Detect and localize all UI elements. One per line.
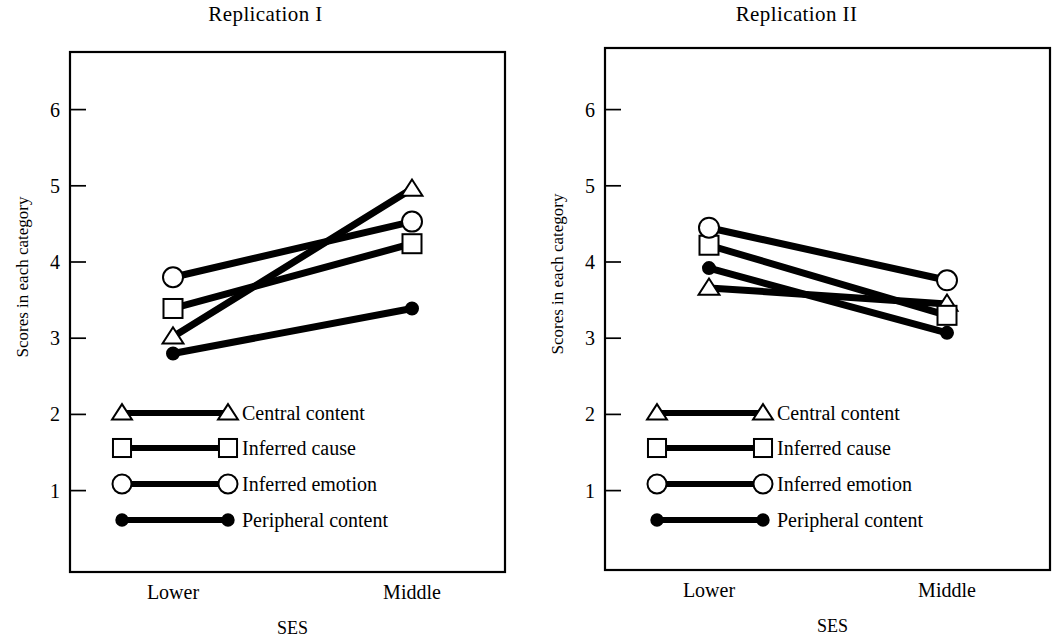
y-axis-tick-label: 2 — [585, 403, 595, 425]
y-axis-tick-label: 6 — [50, 99, 60, 121]
legend-label: Inferred cause — [242, 437, 356, 459]
x-axis-category-label: Middle — [383, 581, 441, 603]
plot-area-replication-2: 123456Scores in each categoryLowerMiddle… — [531, 0, 1062, 642]
series-line-inferred-cause[interactable] — [173, 244, 412, 309]
triangle-open-icon — [402, 179, 423, 195]
x-axis-title: SES — [277, 618, 308, 638]
data-point-circle-filled[interactable] — [703, 262, 715, 274]
data-point-circle-open[interactable] — [113, 475, 132, 494]
data-point-circle-filled[interactable] — [116, 514, 127, 525]
circle-filled-icon — [222, 514, 233, 525]
legend-item-inferred-emotion[interactable]: Inferred emotion — [648, 473, 912, 495]
circle-filled-icon — [116, 514, 127, 525]
data-point-circle-filled[interactable] — [222, 514, 233, 525]
circle-filled-icon — [941, 327, 953, 339]
data-point-circle-open[interactable] — [754, 475, 773, 494]
circle-open-icon — [648, 475, 667, 494]
circle-open-icon — [699, 218, 719, 238]
x-axis-title: SES — [817, 616, 848, 636]
data-point-circle-open[interactable] — [937, 270, 957, 290]
legend-label: Peripheral content — [777, 509, 923, 532]
circle-open-icon — [937, 270, 957, 290]
legend-item-central-content[interactable]: Central content — [647, 402, 900, 424]
circle-open-icon — [219, 475, 238, 494]
data-point-square-open[interactable] — [113, 439, 131, 457]
legend-label: Inferred emotion — [242, 473, 377, 495]
data-point-circle-open[interactable] — [402, 212, 422, 232]
y-axis-title: Scores in each category — [548, 193, 567, 354]
legend-item-inferred-cause[interactable]: Inferred cause — [113, 437, 356, 459]
circle-filled-icon — [703, 262, 715, 274]
square-open-icon — [754, 439, 772, 457]
y-axis-tick-label: 4 — [50, 251, 60, 273]
legend-item-peripheral-content[interactable]: Peripheral content — [651, 509, 923, 532]
circle-filled-icon — [167, 347, 179, 359]
data-point-circle-open[interactable] — [699, 218, 719, 238]
square-open-icon — [648, 439, 666, 457]
y-axis-tick-label: 1 — [585, 480, 595, 502]
data-point-circle-filled[interactable] — [651, 514, 662, 525]
x-axis-category-label: Middle — [918, 579, 976, 601]
legend-label: Inferred emotion — [777, 473, 912, 495]
y-axis-tick-label: 6 — [585, 99, 595, 121]
legend-label: Inferred cause — [777, 437, 891, 459]
data-point-square-open[interactable] — [754, 439, 772, 457]
data-point-circle-filled[interactable] — [167, 347, 179, 359]
circle-open-icon — [402, 212, 422, 232]
circle-open-icon — [754, 475, 773, 494]
panel-replication-2: Replication II 123456Scores in each cate… — [531, 0, 1062, 642]
data-point-circle-open[interactable] — [219, 475, 238, 494]
y-axis-tick-label: 5 — [585, 175, 595, 197]
circle-filled-icon — [757, 514, 768, 525]
y-axis-tick-label: 1 — [50, 480, 60, 502]
x-axis-category-label: Lower — [683, 579, 736, 601]
y-axis-title: Scores in each category — [13, 196, 32, 357]
square-open-icon — [164, 299, 183, 318]
data-point-square-open[interactable] — [938, 306, 957, 325]
circle-open-icon — [113, 475, 132, 494]
legend-item-inferred-cause[interactable]: Inferred cause — [648, 437, 891, 459]
data-point-triangle-open[interactable] — [402, 179, 423, 195]
circle-open-icon — [163, 267, 183, 287]
plot-area-replication-1: 123456Scores in each categoryLowerMiddle… — [0, 0, 531, 642]
square-open-icon — [113, 439, 131, 457]
legend-item-central-content[interactable]: Central content — [112, 402, 365, 424]
data-point-circle-open[interactable] — [648, 475, 667, 494]
y-axis-tick-label: 5 — [50, 175, 60, 197]
data-point-square-open[interactable] — [164, 299, 183, 318]
panel-replication-1: Replication I 123456Scores in each categ… — [0, 0, 531, 642]
data-point-circle-open[interactable] — [163, 267, 183, 287]
square-open-icon — [938, 306, 957, 325]
data-point-square-open[interactable] — [403, 234, 422, 253]
data-point-circle-filled[interactable] — [941, 327, 953, 339]
y-axis-tick-label: 4 — [585, 251, 595, 273]
y-axis-tick-label: 3 — [585, 327, 595, 349]
square-open-icon — [403, 234, 422, 253]
data-point-circle-filled[interactable] — [406, 302, 418, 314]
legend-label: Central content — [242, 402, 365, 424]
figure-two-panel-line-chart: Replication I 123456Scores in each categ… — [0, 0, 1063, 642]
circle-filled-icon — [651, 514, 662, 525]
legend-item-inferred-emotion[interactable]: Inferred emotion — [113, 473, 377, 495]
legend-label: Central content — [777, 402, 900, 424]
circle-filled-icon — [406, 302, 418, 314]
series-line-inferred-emotion[interactable] — [173, 222, 412, 278]
data-point-square-open[interactable] — [648, 439, 666, 457]
legend-item-peripheral-content[interactable]: Peripheral content — [116, 509, 388, 532]
y-axis-tick-label: 3 — [50, 327, 60, 349]
y-axis-tick-label: 2 — [50, 403, 60, 425]
x-axis-category-label: Lower — [147, 581, 200, 603]
square-open-icon — [219, 439, 237, 457]
data-point-circle-filled[interactable] — [757, 514, 768, 525]
data-point-square-open[interactable] — [219, 439, 237, 457]
legend-label: Peripheral content — [242, 509, 388, 532]
